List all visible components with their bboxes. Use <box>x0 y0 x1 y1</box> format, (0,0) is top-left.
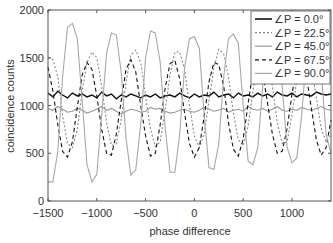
y-tick-label: 2000 <box>20 4 44 16</box>
x-axis-label: phase difference <box>149 225 230 237</box>
chart-figure: −1500−1000−50005001000 0500100015002000 … <box>0 0 333 243</box>
y-axis-label: coincidence counts <box>4 59 16 153</box>
x-tick-label: −1000 <box>81 207 112 219</box>
line-chart: −1500−1000−50005001000 0500100015002000 … <box>0 0 333 243</box>
x-tick-label: 500 <box>234 207 252 219</box>
series-line-0 <box>48 91 331 99</box>
legend-label: ∠P = 45.0° <box>274 40 329 52</box>
series-line-2 <box>48 107 331 115</box>
legend-label: ∠P = 22.5° <box>274 27 329 39</box>
y-tick-label: 0 <box>38 195 44 207</box>
legend-label: ∠P = 90.0° <box>274 67 329 79</box>
legend-label: ∠P = 0.0° <box>274 13 323 25</box>
legend-label: ∠P = 67.5° <box>274 54 329 66</box>
legend: ∠P = 0.0°∠P = 22.5°∠P = 45.0°∠P = 67.5°∠… <box>251 11 330 84</box>
x-tick-label: −1500 <box>33 207 64 219</box>
y-tick-label: 1500 <box>20 52 44 64</box>
x-tick-label: 0 <box>191 207 197 219</box>
y-tick-label: 500 <box>26 147 44 159</box>
y-tick-label: 1000 <box>20 100 44 112</box>
x-tick-label: 1000 <box>280 207 304 219</box>
x-tick-label: −500 <box>133 207 158 219</box>
